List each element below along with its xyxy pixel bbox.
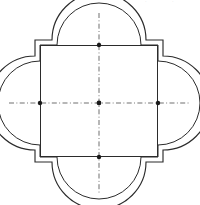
node-east: [156, 101, 160, 105]
quatrefoil-plan-drawing: [0, 0, 200, 205]
node-west: [38, 101, 42, 105]
node-center: [97, 101, 102, 106]
node-north: [97, 43, 101, 47]
node-south: [97, 155, 101, 159]
